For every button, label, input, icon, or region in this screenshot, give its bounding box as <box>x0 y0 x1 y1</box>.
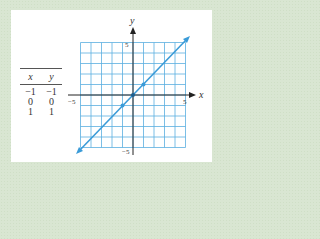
x-axis-label: x <box>198 89 204 100</box>
x-axis-arrow-icon <box>189 92 196 98</box>
x-max-tick-label: 5 <box>183 98 187 106</box>
y-min-tick-label: −5 <box>122 148 130 156</box>
coordinate-plot: x y −5 5 5 −5 <box>0 0 220 172</box>
point-1-1 <box>142 83 146 87</box>
y-axis-arrow-icon <box>130 27 136 34</box>
point-0-0 <box>131 93 135 97</box>
point-neg1-neg1 <box>121 104 125 108</box>
x-min-tick-label: −5 <box>68 98 76 106</box>
y-max-tick-label: 5 <box>125 41 129 49</box>
y-axis-label: y <box>129 15 135 26</box>
